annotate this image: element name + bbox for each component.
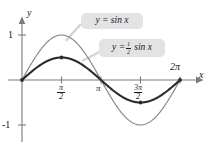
- callout-leader-lines: [66, 24, 99, 61]
- x-axis: [8, 77, 204, 84]
- callout-sin-text: y = sin x: [95, 16, 128, 26]
- y-axis-label: y: [27, 8, 31, 18]
- y-tick-label-neg1: -1: [2, 120, 10, 130]
- callout-half-sin-rhs: sin x: [134, 43, 152, 53]
- x-tick-3pi2-numerator: 3π: [132, 84, 144, 92]
- leader-line-sin: [66, 24, 81, 41]
- one-half-fraction: 12: [126, 41, 131, 55]
- x-tick-label-2pi: 2π: [170, 62, 180, 72]
- data-point-marker: [20, 78, 24, 82]
- fraction-denominator: 2: [126, 48, 131, 55]
- x-tick-label-pi-over-2: π 2: [57, 84, 65, 102]
- x-axis-label: x: [199, 70, 203, 80]
- x-tick-3pi2-denominator: 2: [134, 92, 142, 101]
- callout-sin: y = sin x: [81, 13, 143, 29]
- data-point-marker: [60, 56, 64, 60]
- x-tick-pi2-denominator: 2: [57, 92, 65, 101]
- callout-half-sin: y =12sin x: [99, 39, 165, 57]
- x-tick-label-pi: π: [96, 84, 101, 93]
- data-point-marker: [178, 78, 182, 82]
- y-tick-label-1: 1: [8, 30, 13, 40]
- trig-graph-figure: y = sin x y =12sin x y x 1 -1 π 2 π 3π 2…: [0, 0, 212, 151]
- x-tick-label-3pi-over-2: 3π 2: [132, 84, 144, 102]
- callout-half-sin-lhs: y =: [112, 43, 125, 53]
- x-tick-pi2-numerator: π: [57, 84, 65, 92]
